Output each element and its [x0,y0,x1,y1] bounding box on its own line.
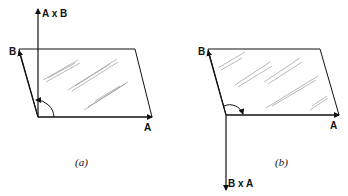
figure-a: A x B B A (a) [9,8,152,169]
caption-b: (b) [275,156,288,169]
label-a: A [144,122,151,133]
figure-b: B x A B A (b) [198,46,339,190]
rotation-arc-b [224,105,243,114]
label-b: B [198,46,205,57]
parallelogram-a [19,49,152,117]
label-a: A [330,120,337,131]
shading-b [218,52,328,110]
label-b: B [9,46,16,57]
rotation-arc-a [36,100,54,117]
cross-product-diagram: A x B B A (a) B x A B A (b) [0,0,348,196]
label-cross-ab: A x B [42,8,67,19]
vector-b-arrow [208,51,226,115]
caption-a: (a) [75,156,88,169]
vector-b-arrow [19,51,38,117]
shading-a [43,59,128,110]
label-cross-ba: B x A [228,178,253,189]
